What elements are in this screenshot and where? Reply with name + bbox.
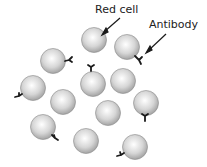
red-cell — [123, 135, 148, 160]
red-cell — [134, 91, 159, 116]
red-cell — [51, 90, 76, 115]
red-cell — [111, 69, 136, 94]
red-cell — [74, 129, 99, 154]
red-cell — [82, 28, 107, 53]
red-cell — [41, 49, 66, 74]
antibody-icon — [142, 114, 148, 121]
red-cell — [81, 72, 106, 97]
antibody-icon — [135, 56, 142, 64]
antibody-label: Antibody — [149, 18, 198, 31]
antibody-icon — [15, 93, 22, 97]
antibody-icon — [117, 152, 124, 156]
red-cell-label: Red cell — [95, 3, 138, 16]
antibody-icon — [52, 135, 58, 140]
antibody-icon — [88, 65, 94, 71]
antibody-pointer — [149, 34, 166, 50]
antibody-icon — [65, 57, 72, 62]
red-cell — [21, 76, 46, 101]
red-cell — [96, 101, 121, 126]
